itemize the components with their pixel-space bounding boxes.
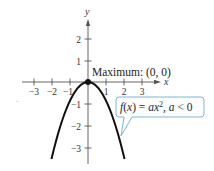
y-tick-label: 1 (76, 57, 81, 67)
x-tick-label: 2 (122, 87, 127, 97)
parabola-chart: x y −3 −2 −1 1 2 3 2 1 −1 −2 −3 (0, 0, 214, 171)
y-tick-label: −3 (71, 144, 81, 154)
y-axis: y (84, 6, 90, 164)
y-axis-label: y (84, 6, 90, 17)
y-tick-label: −1 (71, 100, 81, 110)
x-tick-label: −2 (47, 87, 57, 97)
stray-mark (16, 101, 19, 102)
y-tick-label: −2 (71, 122, 81, 132)
maximum-label: Maximum: (0, 0) (92, 66, 171, 79)
callout-formula: f(x) = ax2, a < 0 (120, 100, 193, 115)
function-callout: f(x) = ax2, a < 0 (116, 97, 204, 136)
y-tick-label: 2 (76, 35, 81, 45)
x-tick-label: −3 (29, 87, 39, 97)
x-tick-label: 3 (140, 87, 145, 97)
y-axis-arrow-icon (86, 19, 90, 26)
maximum-point (85, 79, 91, 85)
x-axis-arrow-icon (154, 80, 161, 84)
x-tick-labels: −3 −2 −1 1 2 3 (29, 87, 145, 97)
